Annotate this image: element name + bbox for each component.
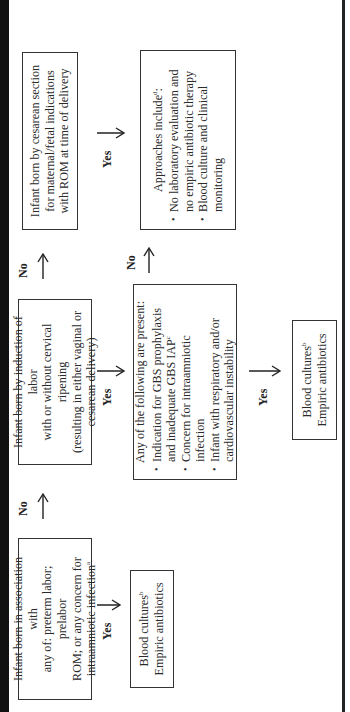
yes-label-col2: Yes	[100, 389, 115, 406]
decision-line: for maternal/fetal indications	[43, 70, 58, 211]
outcome-line: Empiric antibiotics	[152, 582, 167, 675]
footnote-marker: b	[137, 592, 145, 596]
decision-line: intraamniotic infectiona	[84, 562, 99, 676]
outcome-line: Blood culturesb	[137, 592, 152, 667]
decision-line: Infant born in association with	[11, 545, 40, 693]
criteria-item: Infant with respiratory and/or cardiovas…	[208, 293, 237, 471]
criteria-heading: Any of the following are present:	[133, 293, 148, 471]
decision-line: Infant born by induction of labor	[11, 306, 40, 458]
yes-label-col3: Yes	[100, 151, 115, 168]
outcome-line: Empiric antibiotics	[315, 333, 330, 426]
no-label-col2: No	[16, 263, 31, 278]
decision-line: with or without cervical ripening	[40, 306, 69, 458]
decision-box-preterm-labor: Infant born in association with any of: …	[18, 538, 92, 700]
footnote-marker: c	[164, 336, 172, 339]
approach-item: No laboratory evaluation and no empiric …	[167, 59, 196, 221]
page-rule-line	[342, 0, 345, 712]
down-arrow-icon	[96, 126, 126, 140]
footnote-marker: b	[300, 343, 308, 347]
decision-box-induction-of-labor: Infant born by induction of labor with o…	[18, 299, 92, 465]
approaches-list: No laboratory evaluation and no empiric …	[167, 59, 225, 221]
criteria-item: Indication for GBS prophylaxis and inade…	[150, 293, 179, 471]
decision-line: cesarean delivery)	[84, 338, 99, 427]
no-label-col1: No	[16, 501, 31, 516]
decision-line: with ROM at time of delivery	[57, 68, 72, 213]
yes-label-col1: Yes	[100, 623, 115, 640]
right-arrow-icon	[142, 246, 156, 274]
decision-line: any of: preterm labor; prelabor	[40, 545, 69, 693]
outcome-line: Blood culturesb	[300, 343, 315, 418]
right-arrow-icon	[36, 492, 50, 520]
flowchart-rotated-frame: Infant born in association with any of: …	[0, 0, 350, 712]
approaches-heading: Approaches included:	[151, 59, 166, 221]
approaches-box: Approaches included: No laboratory evalu…	[140, 50, 236, 230]
criteria-box-risk-factors: Any of the following are present: Indica…	[133, 284, 237, 480]
outcome-box-blood-cultures-col2: Blood culturesb Empiric antibiotics	[292, 320, 337, 440]
decision-line: Infant born by cesarean section	[28, 65, 43, 217]
footnote-marker: d	[151, 91, 159, 95]
decision-box-cesarean-section: Infant born by cesarean section for mate…	[22, 52, 78, 230]
down-arrow-icon	[96, 364, 126, 378]
approach-item: Blood culture and clinical monitoring	[196, 59, 225, 221]
yes-label-criteria: Yes	[256, 389, 271, 406]
down-arrow-icon	[248, 364, 282, 378]
footnote-marker: a	[84, 562, 92, 565]
decision-line: (resulting in either vaginal or	[70, 311, 85, 453]
down-arrow-icon	[96, 598, 122, 612]
decision-line: ROM; or any concern for	[70, 557, 85, 681]
criteria-list: Indication for GBS prophylaxis and inade…	[150, 293, 238, 471]
outcome-box-blood-cultures-col1: Blood culturesb Empiric antibiotics	[130, 570, 174, 688]
criteria-item: Concern for intraamniotic infection	[179, 293, 208, 471]
right-arrow-icon	[36, 252, 50, 280]
no-label-criteria: No	[124, 255, 139, 270]
